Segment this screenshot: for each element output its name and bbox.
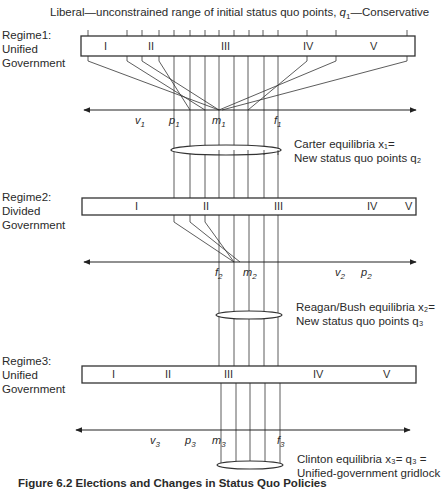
axis3-label-p3: p3 — [185, 434, 196, 449]
diagram-lines — [0, 0, 444, 500]
regime3-type: Unified — [2, 368, 65, 382]
diagram-title: Liberal—unconstrained range of initial s… — [50, 5, 429, 24]
regime2-zone-4: IV — [367, 200, 377, 212]
regime1-box — [81, 36, 415, 56]
carter-line1: Carter equilibria x₁= — [294, 137, 421, 151]
regime3-name: Regime3: — [2, 354, 65, 368]
regime1-label: Regime1: Unified Government — [2, 28, 65, 70]
regime1-zone-4: IV — [303, 40, 313, 52]
regime2-zone-3: III — [274, 200, 283, 212]
clinton-equilibria-note: Clinton equilibria x₃= q₃ = Unified-gove… — [297, 452, 440, 480]
clinton-line1: Clinton equilibria x₃= q₃ = — [297, 452, 440, 466]
regime2-zone-1: I — [135, 200, 138, 212]
regime3-zone-5: V — [383, 368, 390, 380]
regime1-zone-2: II — [148, 40, 154, 52]
axis3-label-m3: m3 — [212, 434, 226, 449]
reagan-line2: New status quo points q₃ — [296, 314, 435, 328]
axis1-label-v1: v1 — [135, 114, 145, 129]
regime1-type: Unified — [2, 42, 65, 56]
axis1-label-p1: p1 — [169, 114, 180, 129]
regime2-label-block: Regime2: Divided Government — [2, 190, 65, 232]
regime1-name: Regime1: — [2, 28, 65, 42]
regime2-name: Regime2: — [2, 190, 65, 204]
regime3-zone-4: IV — [313, 368, 323, 380]
reagan-line1: Reagan/Bush equilibria x₂= — [296, 300, 435, 314]
carter-line2: New status quo points q₂ — [294, 151, 421, 165]
regime1-zone-5: V — [370, 40, 377, 52]
regime2-zone-2: II — [203, 200, 209, 212]
title-text: Liberal—unconstrained range of initial s… — [50, 6, 340, 18]
regime1-zone-1: I — [104, 40, 107, 52]
axis1-label-f1: f1 — [274, 114, 282, 129]
regime1-zone-3: III — [221, 40, 230, 52]
axis3-label-v3: v3 — [150, 434, 160, 449]
regime2-government: Government — [2, 218, 65, 232]
regime1-government: Government — [2, 56, 65, 70]
regime2-zone-5: V — [405, 200, 412, 212]
regime2-type: Divided — [2, 204, 65, 218]
axis2-label-v2: v2 — [335, 266, 345, 281]
axis1-label-m1: m1 — [212, 114, 226, 129]
regime3-government: Government — [2, 382, 65, 396]
axis2-label-p2: p2 — [361, 266, 372, 281]
regime3-zone-3: III — [224, 368, 233, 380]
carter-equilibria-note: Carter equilibria x₁= New status quo poi… — [294, 137, 421, 165]
axis2-label-f2: f2 — [215, 266, 223, 281]
figure-caption: Figure 6.2 Elections and Changes in Stat… — [18, 477, 327, 489]
reagan-bush-equilibria-note: Reagan/Bush equilibria x₂= New status qu… — [296, 300, 435, 328]
axis3-label-f3: f3 — [277, 434, 285, 449]
regime3-zone-1: I — [112, 368, 115, 380]
title-post: —Conservative — [350, 6, 429, 18]
axis2-label-m2: m2 — [243, 266, 257, 281]
regime3-label: Regime3: Unified Government — [2, 354, 65, 396]
regime3-zone-2: II — [165, 368, 171, 380]
